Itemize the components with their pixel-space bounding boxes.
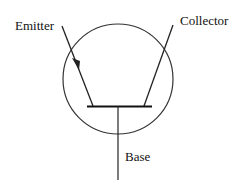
emitter-label: Emitter	[15, 19, 54, 32]
collector-label: Collector	[180, 14, 228, 27]
base-label: Base	[125, 150, 150, 163]
transistor-diagram: Emitter Collector Base	[0, 0, 245, 190]
emitter-arrow-icon	[72, 58, 80, 70]
collector-lead	[144, 25, 173, 106]
